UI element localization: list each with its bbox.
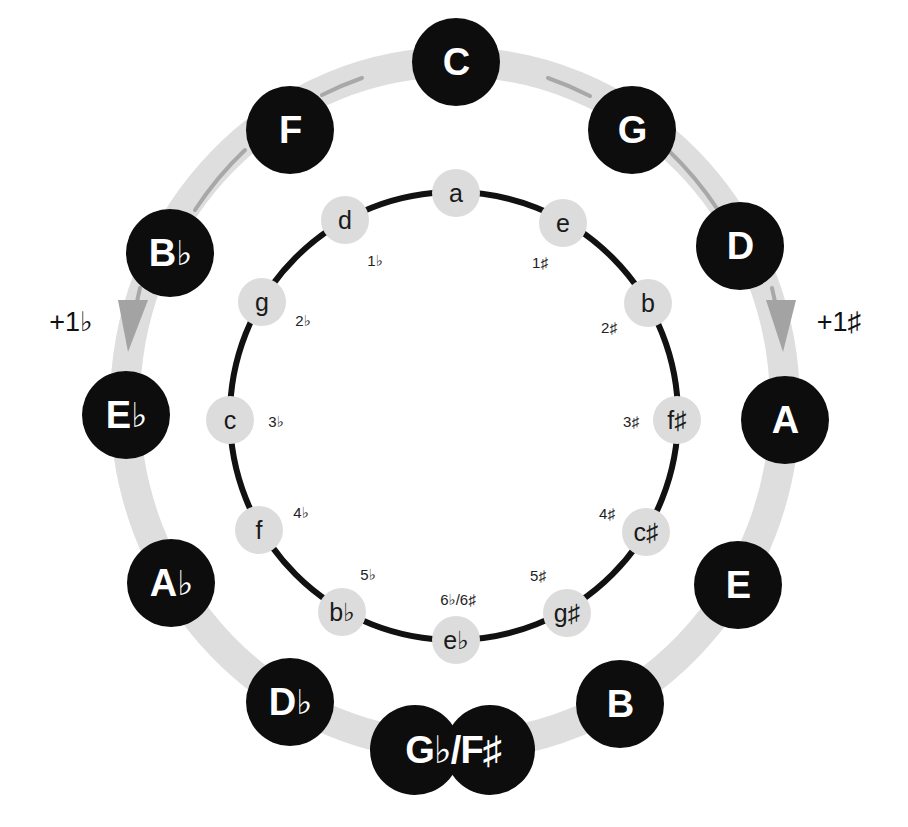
signature-4-sharps: 4♯ bbox=[599, 505, 615, 522]
signature-2-flats: 2♭ bbox=[295, 312, 310, 330]
signature-5-sharps: 5♯ bbox=[530, 567, 546, 584]
minor-key-label: c♯ bbox=[634, 518, 659, 547]
minor-key-a[interactable]: a bbox=[432, 169, 480, 217]
minor-key-label: c bbox=[224, 406, 237, 435]
minor-key-e[interactable]: e bbox=[539, 199, 587, 247]
add-flat-label: +1♭ bbox=[49, 306, 93, 338]
major-key-label: A bbox=[150, 562, 176, 605]
minor-key-b[interactable]: b bbox=[624, 279, 672, 327]
add-sharp-label: +1♯ bbox=[817, 307, 861, 338]
signature-1-sharp: 1♯ bbox=[532, 254, 548, 271]
minor-key-cs[interactable]: c♯ bbox=[622, 508, 670, 556]
major-key-label: D bbox=[269, 681, 295, 724]
signature-5-flats: 5♭ bbox=[360, 566, 375, 584]
circle-of-fifths-diagram: C G D A E B G♭/F♯ D♭ A♭ E♭ B♭ F a e b f♯… bbox=[0, 0, 908, 827]
minor-key-bb[interactable]: b♭ bbox=[318, 588, 366, 636]
major-key-label: E bbox=[106, 394, 130, 437]
minor-key-gs[interactable]: g♯ bbox=[543, 589, 591, 637]
minor-key-label: f bbox=[256, 516, 263, 545]
minor-key-label: a bbox=[449, 179, 463, 208]
minor-key-label: b bbox=[641, 289, 655, 318]
minor-key-label: e bbox=[556, 209, 570, 238]
minor-key-eb[interactable]: e♭ bbox=[432, 616, 480, 664]
major-key-label: D bbox=[727, 225, 753, 268]
minor-key-fs[interactable]: f♯ bbox=[653, 396, 701, 444]
inner-ring bbox=[230, 192, 678, 640]
major-key-db[interactable]: D♭ bbox=[246, 658, 334, 746]
major-key-gb-fs-label: G♭/F♯ bbox=[370, 718, 536, 782]
minor-key-label: g bbox=[255, 288, 269, 317]
major-key-eb[interactable]: E♭ bbox=[82, 371, 170, 459]
major-key-c[interactable]: C bbox=[412, 18, 500, 106]
minor-key-c[interactable]: c bbox=[206, 396, 254, 444]
major-key-label: B bbox=[607, 683, 633, 726]
signature-4-flats: 4♭ bbox=[293, 504, 308, 522]
major-key-d[interactable]: D bbox=[696, 202, 784, 290]
minor-key-g[interactable]: g bbox=[238, 278, 286, 326]
major-key-label: G bbox=[618, 109, 647, 152]
flat-icon: ♭ bbox=[176, 233, 191, 273]
signature-3-sharps: 3♯ bbox=[623, 413, 639, 430]
major-key-e[interactable]: E bbox=[694, 541, 782, 629]
minor-key-label: b♭ bbox=[329, 598, 355, 627]
signature-3-flats: 3♭ bbox=[268, 413, 283, 431]
flat-icon: ♭ bbox=[296, 682, 311, 722]
major-key-bb[interactable]: B♭ bbox=[126, 209, 214, 297]
minor-key-d[interactable]: d bbox=[321, 196, 369, 244]
minor-key-f[interactable]: f bbox=[235, 506, 283, 554]
major-key-f[interactable]: F bbox=[246, 86, 334, 174]
major-key-g[interactable]: G bbox=[588, 86, 676, 174]
major-key-label: E bbox=[726, 564, 750, 607]
signature-6-flats-6-sharps: 6♭/6♯ bbox=[440, 591, 475, 609]
minor-key-label: d bbox=[338, 206, 352, 235]
minor-key-label: f♯ bbox=[667, 406, 686, 435]
major-key-label: F bbox=[279, 109, 301, 152]
minor-key-label: e♭ bbox=[443, 626, 469, 655]
major-key-b[interactable]: B bbox=[576, 660, 664, 748]
major-key-label: B bbox=[149, 232, 175, 275]
major-key-ab[interactable]: A♭ bbox=[127, 539, 215, 627]
signature-1-flat: 1♭ bbox=[367, 252, 382, 270]
minor-key-label: g♯ bbox=[554, 599, 580, 628]
flat-icon: ♭ bbox=[131, 395, 146, 435]
flat-icon: ♭ bbox=[177, 563, 192, 603]
major-key-label: A bbox=[772, 399, 798, 442]
major-key-a[interactable]: A bbox=[741, 376, 829, 464]
signature-2-sharps: 2♯ bbox=[601, 319, 617, 336]
major-key-label: C bbox=[443, 41, 469, 84]
